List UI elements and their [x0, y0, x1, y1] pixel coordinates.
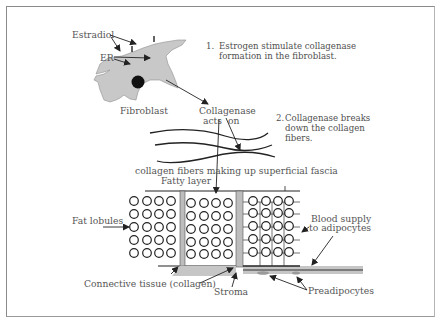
step-1-note: 1. Estrogen stimulate collagenase format…: [206, 41, 356, 61]
nucleus-icon: [132, 76, 145, 89]
preadipocyte-2: [292, 271, 300, 274]
label-stroma: Stroma: [214, 286, 249, 297]
label-preadipocytes: Preadipocytes: [308, 285, 374, 296]
step-1-number: 1.: [206, 41, 214, 51]
label-acts: acts: [203, 115, 222, 126]
step-2-line3: fibers.: [285, 133, 313, 143]
connective-tissue-septum: [180, 191, 185, 266]
step-2-note: 2. Collagenase breaks down the collagen …: [276, 113, 370, 143]
collagen-fibers: [150, 130, 275, 163]
fiber-2: [155, 143, 272, 151]
step-2-line2: down the collagen: [285, 123, 365, 133]
label-fat-lobules: Fat lobules: [72, 215, 123, 226]
step-1-line2: formation in the fibroblast.: [219, 51, 337, 61]
label-connective-tissue: Connective tissue (collagen): [84, 278, 216, 289]
fiber-3: [157, 152, 275, 163]
step-2-number: 2.: [276, 113, 284, 123]
arrow-blood-supply-grid: [302, 227, 309, 232]
preadipocyte-1: [257, 271, 269, 275]
fiber-1: [150, 130, 268, 140]
label-on: on: [228, 115, 240, 126]
label-blood-supply-line2: to adipocytes: [309, 222, 371, 233]
arrow-estradiol-to-er: [111, 37, 120, 51]
fibroblast-body: [94, 40, 186, 102]
label-fibroblast: Fibroblast: [120, 105, 168, 116]
fibroblast-cell: [94, 36, 186, 102]
arrow-cell-to-collagenase: [166, 80, 208, 104]
estrogen-collagenase-diagram: Estradiol ER Fibroblast 1. Estrogen stim…: [0, 0, 440, 325]
step-2-line1: Collagenase breaks: [285, 113, 370, 123]
step-1-line1: Estrogen stimulate collagenase: [219, 41, 356, 51]
arrow-blood-supply-vessel: [312, 236, 333, 265]
fat-lobules: [130, 197, 294, 259]
stroma-septum: [236, 191, 243, 267]
label-er: ER: [100, 52, 115, 63]
label-estradiol: Estradiol: [72, 29, 114, 40]
label-fatty-layer: Fatty layer: [161, 175, 212, 186]
